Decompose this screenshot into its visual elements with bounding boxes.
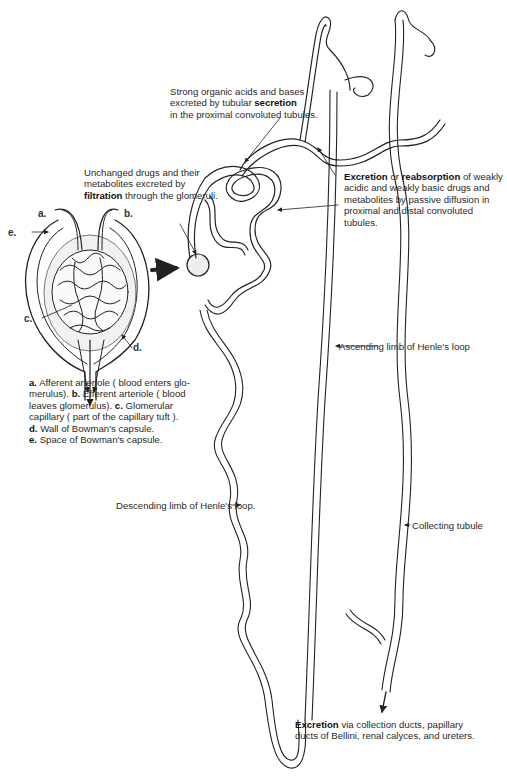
letter-c: c. <box>24 313 32 324</box>
flow-arrow-to-tubule <box>152 268 176 270</box>
label-ascending-limb: Ascending limb of Henle's loop <box>339 341 470 352</box>
letter-e: e. <box>8 227 16 238</box>
label-descending-limb: Descending limb of Henle's loop. <box>116 500 255 511</box>
letter-d: d. <box>133 342 142 353</box>
ascending-limb-henle <box>305 90 337 720</box>
glomerulus-legend: a. Afferent arteriole ( blood enters glo… <box>29 377 190 445</box>
label-passive-diffusion: Excretion or reabsorption of weakly acid… <box>344 171 503 228</box>
letter-a: a. <box>38 208 46 219</box>
collecting-tubule <box>346 11 435 712</box>
letter-b: b. <box>124 208 133 219</box>
label-collecting-tubule: Collecting tubule <box>412 520 483 531</box>
descending-limb-henle <box>200 310 306 768</box>
label-tubular-secretion: Strong organic acids and bases excreted … <box>170 86 318 120</box>
label-final-excretion: Excretion via collection ducts, papillar… <box>295 719 475 742</box>
glomerular-tuft <box>52 250 128 334</box>
label-glomerular-filtration: Unchanged drugs and their metabolites ex… <box>84 167 218 201</box>
